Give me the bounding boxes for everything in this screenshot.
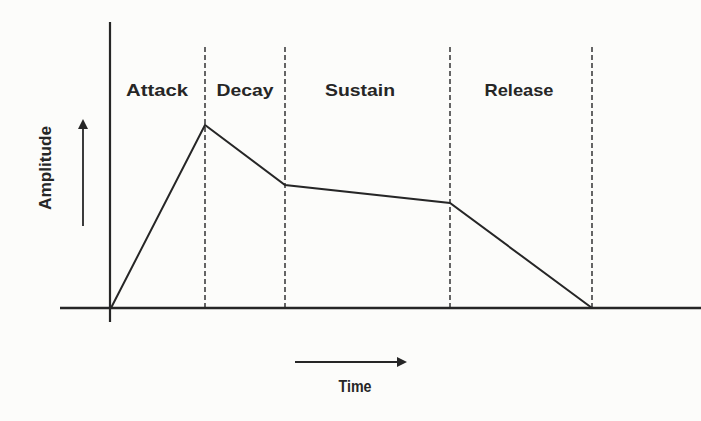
envelope-line <box>111 125 592 308</box>
adsr-diagram: Attack Decay Sustain Release Amplitude T… <box>0 0 701 421</box>
x-axis-label: Time <box>339 377 372 396</box>
diagram-canvas: Attack Decay Sustain Release Amplitude T… <box>0 0 701 421</box>
y-axis-label: Amplitude <box>36 126 55 210</box>
phase-label-attack: Attack <box>126 81 189 100</box>
phase-label-sustain: Sustain <box>325 81 395 100</box>
phase-label-decay: Decay <box>217 81 275 100</box>
phase-label-release: Release <box>485 81 554 100</box>
